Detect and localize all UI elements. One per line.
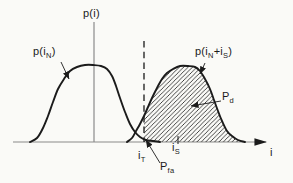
plot-canvas (0, 0, 293, 183)
y-axis-label-text: p(i) (83, 7, 100, 19)
x-axis-label: i (270, 147, 273, 158)
label-signal-mean: iS (172, 142, 180, 156)
label-noise-density: p(iN) (33, 46, 56, 60)
label-false-alarm-probability: Pfa (160, 161, 174, 175)
label-detection-probability: Pd (222, 91, 234, 105)
pfa-arrow (146, 140, 160, 163)
figure-signal-detection: p(i) p(iN) p(iN+iS) Pd iT Pfa iS i (0, 0, 293, 183)
label-signal-plus-noise-density: p(iN+iS) (195, 46, 232, 60)
label-threshold: iT (138, 150, 146, 164)
noise-density-curve (30, 65, 160, 142)
y-axis-label: p(i) (83, 8, 100, 19)
x-axis-label-text: i (270, 146, 273, 158)
p-iNiS-arrow (200, 63, 205, 74)
